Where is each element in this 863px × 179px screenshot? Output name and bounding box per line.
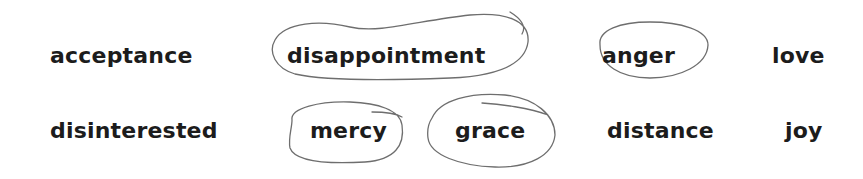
word-acceptance: acceptance: [50, 45, 193, 67]
word-disappointment: disappointment: [287, 45, 485, 67]
word-distance: distance: [607, 120, 714, 142]
word-love: love: [772, 45, 825, 67]
word-grace: grace: [455, 120, 525, 142]
word-mercy: mercy: [310, 120, 387, 142]
word-joy: joy: [785, 120, 823, 142]
word-anger: anger: [602, 45, 675, 67]
word-disinterested: disinterested: [50, 120, 218, 142]
hand-drawn-circles: [0, 0, 863, 179]
